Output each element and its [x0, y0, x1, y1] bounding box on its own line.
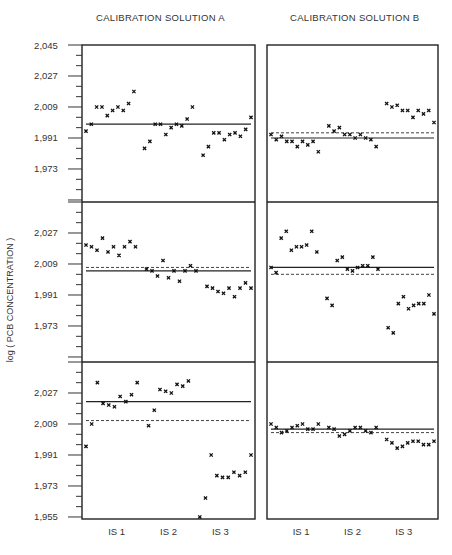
- data-point-x-marker: [153, 409, 156, 412]
- data-point-x-marker: [310, 230, 313, 233]
- data-point-x-marker: [181, 385, 184, 388]
- data-point-x-marker: [390, 105, 393, 108]
- data-point-x-marker: [396, 447, 399, 450]
- data-point-x-marker: [392, 331, 395, 334]
- data-point-x-marker: [296, 424, 299, 427]
- data-point-x-marker: [315, 250, 318, 253]
- data-point-x-marker: [369, 138, 372, 141]
- data-point-x-marker: [113, 405, 116, 408]
- data-point-x-marker: [280, 135, 283, 138]
- data-point-x-marker: [285, 230, 288, 233]
- data-point-x-marker: [175, 383, 178, 386]
- data-point-x-marker: [116, 105, 119, 108]
- data-point-x-marker: [161, 259, 164, 262]
- data-point-x-marker: [132, 90, 135, 93]
- data-point-x-marker: [396, 104, 399, 107]
- data-point-x-marker: [275, 138, 278, 141]
- data-point-x-marker: [238, 287, 241, 290]
- data-point-x-marker: [239, 135, 242, 138]
- y-tick-label: 2,009: [34, 258, 58, 269]
- data-point-x-marker: [402, 295, 405, 298]
- data-point-x-marker: [164, 133, 167, 136]
- data-point-x-marker: [411, 116, 414, 119]
- data-point-x-marker: [348, 133, 351, 136]
- data-point-x-marker: [332, 130, 335, 133]
- data-point-x-marker: [128, 240, 131, 243]
- data-point-x-marker: [422, 443, 425, 446]
- data-point-x-marker: [170, 126, 173, 129]
- data-point-x-marker: [101, 237, 104, 240]
- data-point-x-marker: [336, 259, 339, 262]
- data-point-x-marker: [364, 429, 367, 432]
- data-point-x-marker: [112, 245, 115, 248]
- data-point-x-marker: [101, 402, 104, 405]
- data-point-x-marker: [143, 147, 146, 150]
- data-point-x-marker: [285, 429, 288, 432]
- data-point-x-marker: [411, 440, 414, 443]
- data-point-x-marker: [186, 117, 189, 120]
- data-point-x-marker: [269, 133, 272, 136]
- data-point-x-marker: [233, 131, 236, 134]
- data-point-x-marker: [249, 287, 252, 290]
- data-point-x-marker: [401, 445, 404, 448]
- data-point-x-marker: [170, 391, 173, 394]
- x-tick-label: IS 1: [108, 526, 125, 537]
- data-point-x-marker: [215, 474, 218, 477]
- y-tick-label: 1,973: [34, 480, 58, 491]
- data-point-x-marker: [305, 243, 308, 246]
- data-point-x-marker: [178, 280, 181, 283]
- data-point-x-marker: [338, 126, 341, 129]
- data-point-x-marker: [376, 268, 379, 271]
- data-point-x-marker: [191, 105, 194, 108]
- data-point-x-marker: [167, 276, 170, 279]
- x-tick-label: IS 2: [160, 526, 177, 537]
- y-tick-label: 2,027: [34, 227, 58, 238]
- x-tick-label: IS 3: [212, 526, 229, 537]
- data-point-x-marker: [348, 429, 351, 432]
- data-point-x-marker: [95, 105, 98, 108]
- data-point-x-marker: [134, 245, 137, 248]
- data-point-x-marker: [119, 395, 122, 398]
- data-point-x-marker: [122, 109, 125, 112]
- data-point-x-marker: [295, 245, 298, 248]
- data-point-x-marker: [227, 476, 230, 479]
- data-point-x-marker: [216, 290, 219, 293]
- data-point-x-marker: [222, 292, 225, 295]
- data-point-x-marker: [371, 256, 374, 259]
- data-point-x-marker: [366, 264, 369, 267]
- y-tick-label: 2,009: [34, 418, 58, 429]
- data-point-x-marker: [359, 133, 362, 136]
- data-point-x-marker: [361, 264, 364, 267]
- y-tick-label: 2,009: [34, 101, 58, 112]
- data-point-x-marker: [327, 124, 330, 127]
- data-point-x-marker: [417, 109, 420, 112]
- y-tick-label: 1,991: [34, 132, 58, 143]
- data-point-x-marker: [158, 388, 161, 391]
- data-point-x-marker: [189, 264, 192, 267]
- scatter-chart: 2,0452,0272,0091,9911,9732,0272,0091,991…: [0, 0, 452, 555]
- data-point-x-marker: [301, 140, 304, 143]
- y-tick-label: 2,027: [34, 387, 58, 398]
- data-point-x-marker: [407, 307, 410, 310]
- data-point-x-marker: [422, 112, 425, 115]
- data-point-x-marker: [417, 302, 420, 305]
- data-point-x-marker: [427, 443, 430, 446]
- data-point-x-marker: [130, 393, 133, 396]
- data-point-x-marker: [90, 245, 93, 248]
- data-point-x-marker: [327, 426, 330, 429]
- panel-b-row-1: [269, 102, 435, 153]
- y-tick-label: 1,973: [34, 320, 58, 331]
- data-point-x-marker: [227, 287, 230, 290]
- data-point-x-marker: [390, 441, 393, 444]
- data-point-x-marker: [145, 268, 148, 271]
- data-point-x-marker: [95, 249, 98, 252]
- data-point-x-marker: [432, 312, 435, 315]
- data-point-x-marker: [343, 133, 346, 136]
- data-point-x-marker: [123, 245, 126, 248]
- data-point-x-marker: [233, 295, 236, 298]
- data-point-x-marker: [300, 245, 303, 248]
- x-axis-labels: IS 1IS 2IS 3IS 1IS 2IS 3: [108, 526, 412, 537]
- data-point-x-marker: [346, 268, 349, 271]
- data-point-x-marker: [351, 269, 354, 272]
- data-point-x-marker: [148, 140, 151, 143]
